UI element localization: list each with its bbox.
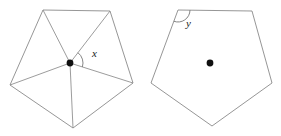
left-angle-label-x: x bbox=[91, 47, 97, 59]
right-pentagon-outline bbox=[151, 10, 272, 126]
right-angle-label-y: y bbox=[185, 17, 191, 29]
left-center-point-dot bbox=[67, 60, 74, 67]
geometry-figure: x y bbox=[0, 0, 281, 136]
right-pentagon-group: y bbox=[151, 10, 272, 126]
right-center-point-dot bbox=[207, 60, 214, 67]
left-pentagon-group: x bbox=[10, 10, 133, 128]
left-pentagon-outline bbox=[10, 10, 133, 128]
figure-canvas: x y bbox=[0, 0, 281, 136]
